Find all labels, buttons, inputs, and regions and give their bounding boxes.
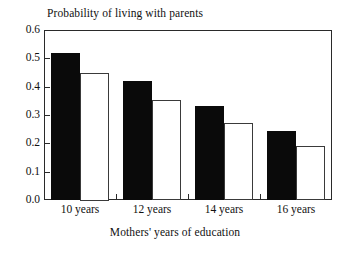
- y-axis-tick-label: 0.4: [8, 81, 40, 93]
- y-axis-tick-mark: [44, 115, 50, 116]
- x-axis-tick-mark: [188, 194, 189, 200]
- y-axis-tick-label: 0.2: [8, 137, 40, 149]
- bar-white-bar-0: [80, 73, 109, 201]
- bar-black-bar-1: [123, 81, 152, 200]
- bar-white-bar-3: [296, 146, 325, 200]
- y-axis-tick-label: 0.6: [8, 24, 40, 36]
- bar-white-bar-1: [152, 100, 181, 200]
- x-axis-tick-mark: [116, 194, 117, 200]
- bar-black-bar-3: [267, 131, 296, 200]
- bar-white-bar-2: [224, 123, 253, 200]
- y-axis-tick-mark: [44, 58, 50, 59]
- y-axis-tick-mark: [44, 172, 50, 173]
- bar-black-bar-2: [195, 106, 224, 200]
- x-axis-category-label: 16 years: [251, 203, 341, 216]
- y-axis-tick-label: 0.5: [8, 52, 40, 64]
- x-axis-title: Mothers' years of education: [0, 226, 350, 239]
- y-axis-tick-label: 0.3: [8, 109, 40, 121]
- bar-black-bar-0: [51, 53, 80, 200]
- y-axis-tick-mark: [44, 87, 50, 88]
- bar-chart-figure: Probability of living with parents 0.60.…: [0, 0, 350, 255]
- y-axis-tick-label: 0.1: [8, 166, 40, 178]
- x-axis-tick-mark: [260, 194, 261, 200]
- y-axis-tick-mark: [44, 143, 50, 144]
- chart-title: Probability of living with parents: [47, 7, 203, 20]
